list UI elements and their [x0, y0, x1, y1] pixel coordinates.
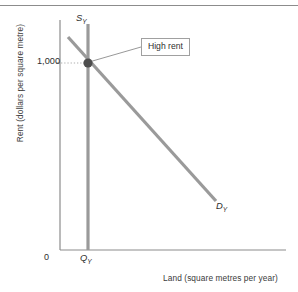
quantity-label-subscript: Y	[87, 258, 91, 265]
equilibrium-point	[83, 58, 92, 67]
quantity-axis-label: QY	[80, 252, 92, 265]
x-axis-title: Land (square metres per year)	[163, 273, 278, 283]
callout-leader-line	[89, 47, 141, 62]
supply-curve-label: SY	[76, 12, 87, 25]
y-tick-label-1000: 1,000	[18, 56, 60, 66]
demand-curve-label-text: D	[216, 200, 223, 211]
demand-curve-label-subscript: Y	[223, 206, 227, 213]
high-rent-callout: High rent	[141, 38, 190, 56]
economics-figure: Rent (dollars per square metre) Land (sq…	[0, 0, 298, 292]
demand-curve-label: DY	[216, 200, 227, 213]
supply-curve-label-subscript: Y	[82, 18, 86, 25]
y-axis-title: Rent (dollars per square metre)	[15, 3, 25, 163]
origin-label: 0	[44, 252, 49, 262]
